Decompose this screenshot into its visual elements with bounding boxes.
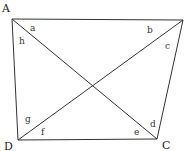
diagonal-ac	[12, 19, 157, 139]
angle-label-c: c	[165, 41, 170, 51]
quadrilateral-diagram: ACD abcdefgh	[0, 0, 188, 151]
angle-label-b: b	[147, 25, 153, 35]
side-bc	[157, 20, 183, 139]
angle-label-g: g	[25, 114, 31, 124]
diagonal-bd	[18, 20, 183, 140]
side-ab	[12, 19, 183, 20]
angle-label-a: a	[30, 23, 36, 33]
edges-group	[12, 19, 183, 140]
vertex-label-a: A	[1, 2, 11, 15]
angle-labels-group: abcdefgh	[19, 23, 170, 137]
angle-label-f: f	[41, 127, 45, 137]
angle-label-e: e	[134, 127, 139, 137]
side-cd	[18, 139, 157, 140]
angle-label-h: h	[19, 36, 25, 46]
vertex-label-c: C	[162, 139, 170, 151]
angle-label-d: d	[150, 119, 156, 129]
side-da	[12, 19, 18, 140]
vertex-label-d: D	[4, 140, 13, 151]
